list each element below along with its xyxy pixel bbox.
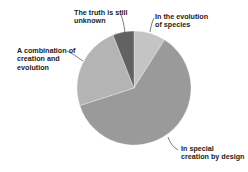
leader-line-evolution (150, 18, 154, 32)
label-combination: A combination of creation and evolution (17, 46, 77, 72)
label-unknown: The truth is still unknown (74, 8, 130, 25)
pie-slices (77, 31, 191, 145)
pie-chart: In the evolution of species In special c… (0, 0, 248, 172)
leader-line-unknown (121, 15, 125, 33)
label-evolution: In the evolution of species (155, 12, 210, 29)
label-special-creation: In special creation by design (181, 144, 245, 161)
leader-line-special-creation (168, 137, 178, 150)
